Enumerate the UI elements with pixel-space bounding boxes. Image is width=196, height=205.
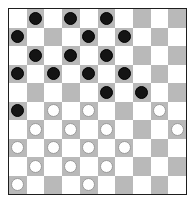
square-r6-c9[interactable]	[168, 120, 186, 139]
white-piece[interactable]	[11, 178, 24, 191]
square-r8-c2	[44, 157, 62, 176]
white-piece[interactable]	[100, 160, 113, 173]
white-piece[interactable]	[64, 123, 77, 136]
square-r5-c6[interactable]	[115, 102, 133, 121]
square-r9-c4[interactable]	[80, 176, 98, 195]
square-r0-c7[interactable]	[133, 9, 151, 28]
square-r3-c2[interactable]	[44, 65, 62, 84]
square-r3-c5	[98, 65, 116, 84]
square-r6-c3[interactable]	[62, 120, 80, 139]
square-r1-c4[interactable]	[80, 28, 98, 47]
square-r5-c8[interactable]	[151, 102, 169, 121]
black-piece[interactable]	[64, 12, 77, 25]
square-r8-c9[interactable]	[168, 157, 186, 176]
white-piece[interactable]	[153, 104, 166, 117]
black-piece[interactable]	[100, 86, 113, 99]
square-r7-c8[interactable]	[151, 139, 169, 158]
black-piece[interactable]	[82, 30, 95, 43]
square-r2-c9[interactable]	[168, 46, 186, 65]
square-r3-c0[interactable]	[9, 65, 27, 84]
square-r8-c4	[80, 157, 98, 176]
white-piece[interactable]	[100, 123, 113, 136]
white-piece[interactable]	[64, 160, 77, 173]
white-piece[interactable]	[82, 141, 95, 154]
black-piece[interactable]	[11, 104, 24, 117]
square-r7-c2[interactable]	[44, 139, 62, 158]
square-r0-c3[interactable]	[62, 9, 80, 28]
white-piece[interactable]	[47, 104, 60, 117]
square-r1-c8[interactable]	[151, 28, 169, 47]
square-r5-c0[interactable]	[9, 102, 27, 121]
black-piece[interactable]	[118, 67, 131, 80]
square-r6-c6	[115, 120, 133, 139]
square-r6-c1[interactable]	[27, 120, 45, 139]
white-piece[interactable]	[171, 123, 184, 136]
square-r8-c5[interactable]	[98, 157, 116, 176]
black-piece[interactable]	[100, 12, 113, 25]
square-r7-c6[interactable]	[115, 139, 133, 158]
black-piece[interactable]	[11, 67, 24, 80]
white-piece[interactable]	[118, 141, 131, 154]
black-piece[interactable]	[29, 49, 42, 62]
square-r2-c4	[80, 46, 98, 65]
square-r3-c8[interactable]	[151, 65, 169, 84]
square-r4-c5[interactable]	[98, 83, 116, 102]
square-r4-c1[interactable]	[27, 83, 45, 102]
black-piece[interactable]	[64, 49, 77, 62]
square-r9-c6[interactable]	[115, 176, 133, 195]
square-r8-c3[interactable]	[62, 157, 80, 176]
white-piece[interactable]	[82, 104, 95, 117]
square-r0-c5[interactable]	[98, 9, 116, 28]
square-r6-c0	[9, 120, 27, 139]
black-piece[interactable]	[135, 86, 148, 99]
white-piece[interactable]	[29, 160, 42, 173]
square-r5-c4[interactable]	[80, 102, 98, 121]
square-r5-c5	[98, 102, 116, 121]
black-piece[interactable]	[29, 12, 42, 25]
square-r2-c3[interactable]	[62, 46, 80, 65]
square-r4-c7[interactable]	[133, 83, 151, 102]
square-r2-c1[interactable]	[27, 46, 45, 65]
square-r6-c2	[44, 120, 62, 139]
square-r3-c6[interactable]	[115, 65, 133, 84]
square-r5-c2[interactable]	[44, 102, 62, 121]
square-r3-c4[interactable]	[80, 65, 98, 84]
square-r6-c5[interactable]	[98, 120, 116, 139]
white-piece[interactable]	[11, 141, 24, 154]
square-r9-c0[interactable]	[9, 176, 27, 195]
square-r9-c8[interactable]	[151, 176, 169, 195]
square-r6-c7[interactable]	[133, 120, 151, 139]
square-r0-c1[interactable]	[27, 9, 45, 28]
white-piece[interactable]	[47, 141, 60, 154]
square-r2-c7[interactable]	[133, 46, 151, 65]
square-r0-c4	[80, 9, 98, 28]
square-r9-c5	[98, 176, 116, 195]
black-piece[interactable]	[11, 30, 24, 43]
square-r3-c9	[168, 65, 186, 84]
square-r1-c0[interactable]	[9, 28, 27, 47]
square-r8-c7[interactable]	[133, 157, 151, 176]
black-piece[interactable]	[100, 49, 113, 62]
black-piece[interactable]	[118, 30, 131, 43]
square-r1-c2[interactable]	[44, 28, 62, 47]
white-piece[interactable]	[82, 178, 95, 191]
square-r9-c7	[133, 176, 151, 195]
square-r4-c9[interactable]	[168, 83, 186, 102]
square-r4-c3[interactable]	[62, 83, 80, 102]
square-r2-c5[interactable]	[98, 46, 116, 65]
square-r7-c1	[27, 139, 45, 158]
square-r5-c9	[168, 102, 186, 121]
black-piece[interactable]	[82, 67, 95, 80]
square-r7-c4[interactable]	[80, 139, 98, 158]
black-piece[interactable]	[47, 67, 60, 80]
square-r0-c9[interactable]	[168, 9, 186, 28]
square-r1-c6[interactable]	[115, 28, 133, 47]
square-r9-c2[interactable]	[44, 176, 62, 195]
square-r4-c6	[115, 83, 133, 102]
square-r0-c0	[9, 9, 27, 28]
square-r2-c2	[44, 46, 62, 65]
square-r8-c1[interactable]	[27, 157, 45, 176]
white-piece[interactable]	[29, 123, 42, 136]
square-r7-c0[interactable]	[9, 139, 27, 158]
square-r7-c7	[133, 139, 151, 158]
